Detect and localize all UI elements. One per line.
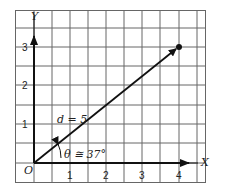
y-tick-2: 2 [22, 80, 28, 91]
x-tick-4: 4 [176, 170, 182, 181]
x-tick-3: 3 [139, 170, 145, 181]
x-axis-label: X [200, 156, 210, 169]
y-tick-1: 1 [22, 119, 28, 130]
y-tick-3: 3 [22, 42, 28, 53]
origin-label: O [24, 164, 33, 177]
x-tick-2: 2 [103, 170, 109, 181]
y-axis-label: Y [31, 10, 40, 23]
magnitude-label: d = 5 [57, 113, 87, 126]
angle-arc [58, 144, 61, 158]
grid [15, 10, 206, 183]
angle-label: θ ≅ 37° [64, 148, 106, 161]
end-point [176, 44, 182, 50]
x-tick-1: 1 [67, 170, 73, 181]
vector-diagram: Y X O 3 2 1 1 2 3 4 d = 5 θ ≅ 37° [0, 0, 226, 190]
